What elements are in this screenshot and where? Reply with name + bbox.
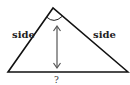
apex-angle-arc [47,17,63,21]
right-side-label: side [93,29,116,40]
base-unknown-label: ? [54,75,59,85]
height-arrow-icon [54,26,61,68]
left-side-label: side [12,29,35,40]
triangle-shape [8,8,128,72]
triangle-diagram: side side ? [0,0,130,85]
